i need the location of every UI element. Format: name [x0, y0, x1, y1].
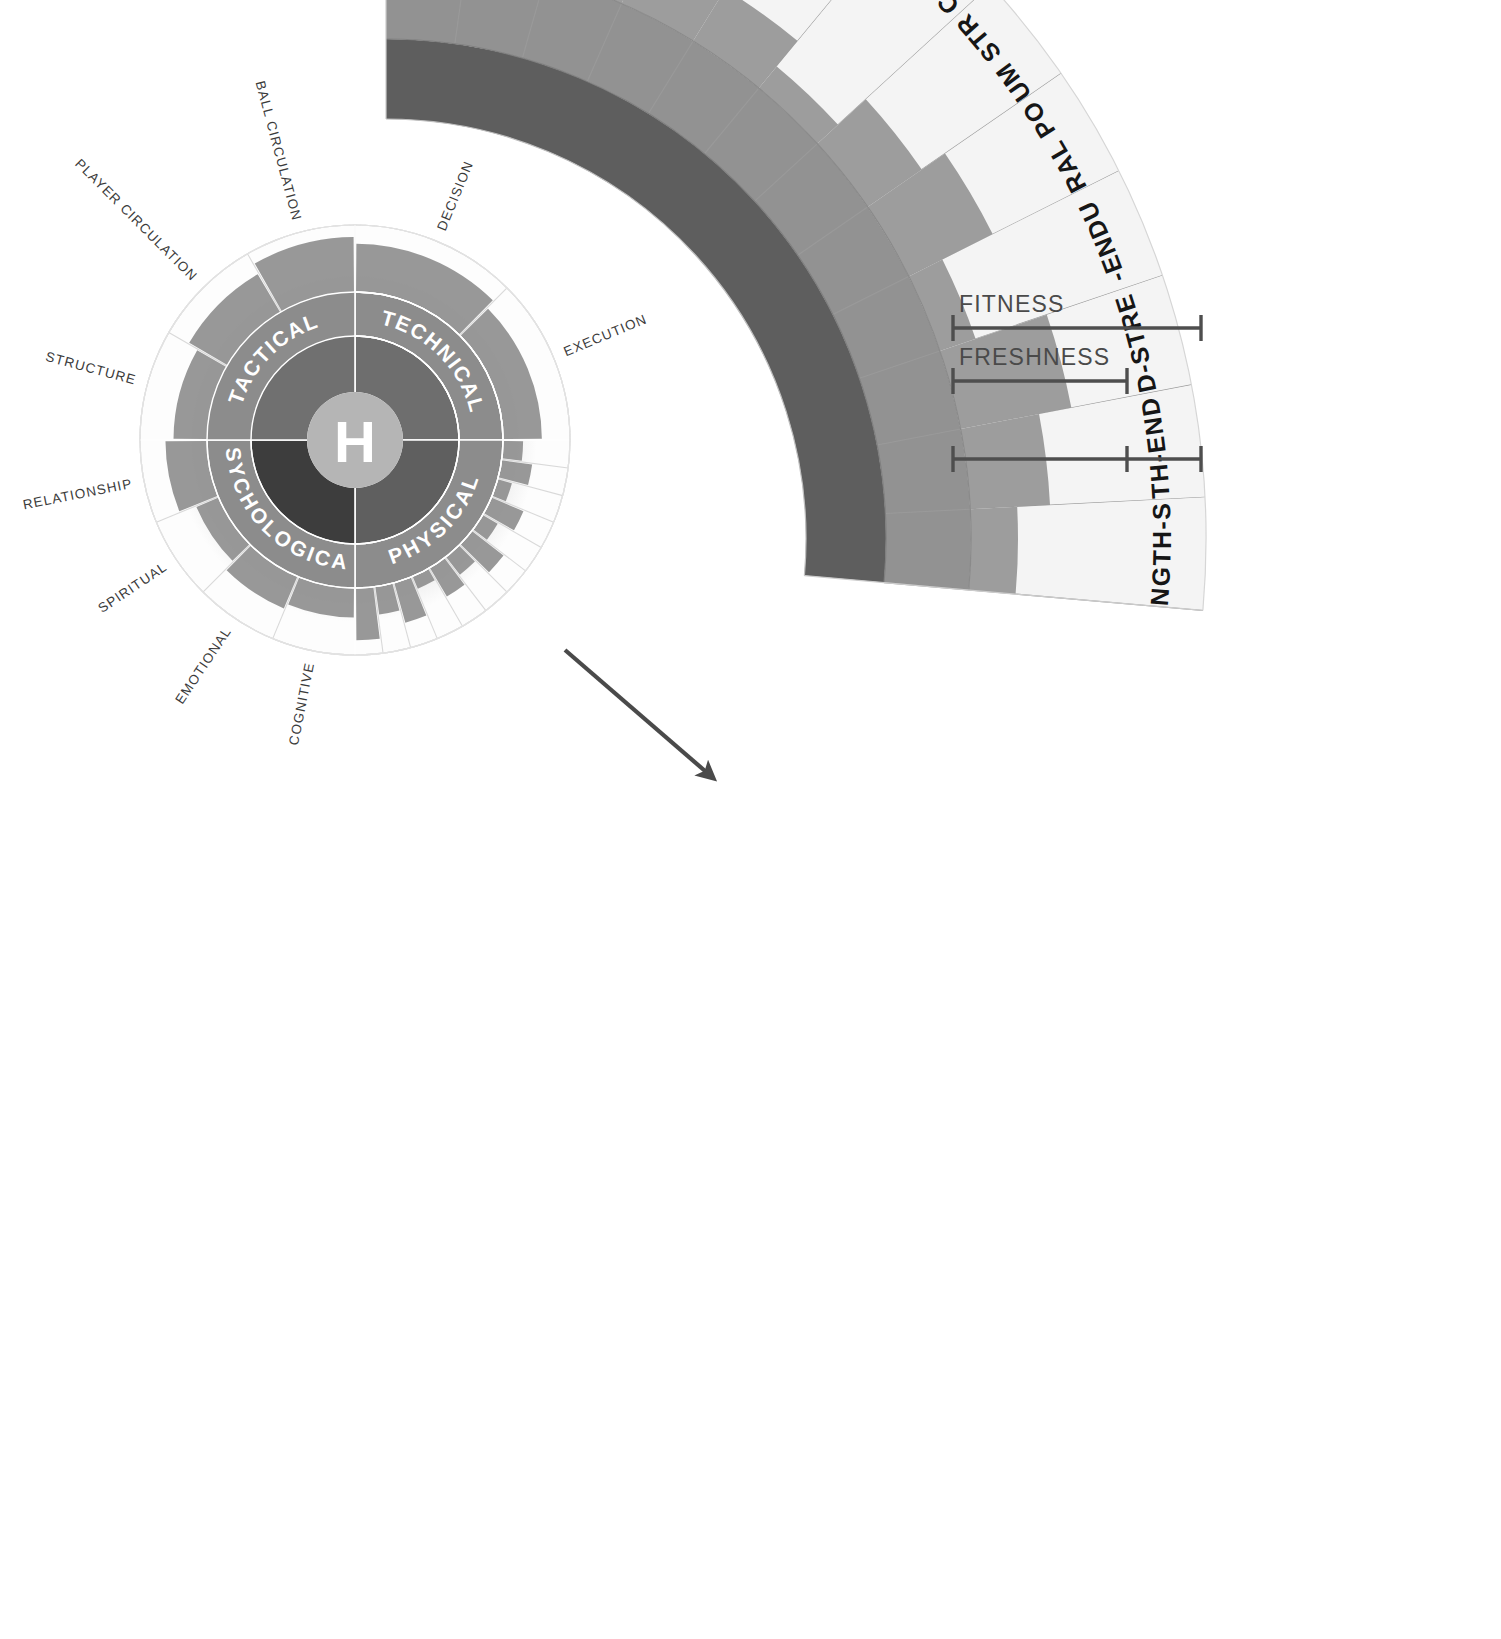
fan-segment-fill	[961, 414, 1050, 509]
wheel-sub-label: EMOTIONAL	[172, 624, 234, 707]
diagram-canvas: TECHNICALDECISIONEXECUTIONPHYSICALPSYCHO…	[0, 0, 1501, 1639]
wheel-sub-segment[interactable]	[502, 441, 523, 461]
zoom-connector-arrow	[565, 650, 712, 777]
wheel-sub-label: BALL CIRCULATION	[253, 79, 305, 222]
wheel-sub-label: DECISION	[434, 159, 476, 233]
connector-arrow	[565, 650, 712, 777]
scale-bar-label: FRESHNESS	[959, 344, 1110, 370]
fan-segment-fill	[969, 507, 1018, 594]
wheel-sub-label: STRUCTURE	[44, 349, 138, 388]
wheel-sub-label: COGNITIVE	[286, 661, 317, 746]
wheel-sub-label: SPIRITUAL	[95, 559, 170, 616]
wheel-hub-letter: H	[334, 409, 376, 474]
wheel-sub-label: RELATIONSHIP	[22, 476, 134, 512]
wheel-sub-label: EXECUTION	[561, 311, 649, 359]
scale-bar-label: FITNESS	[959, 291, 1065, 317]
wheel-sub-label: PLAYER CIRCULATION	[72, 156, 200, 284]
